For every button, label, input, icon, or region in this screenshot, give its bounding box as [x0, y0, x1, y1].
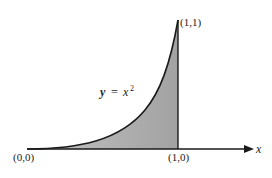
svg-text:y: y — [98, 85, 106, 99]
x-axis-arrowhead-icon — [244, 145, 254, 153]
svg-text:=: = — [111, 85, 118, 99]
point-label-1-0: (1,0) — [168, 151, 189, 164]
area-under-curve-diagram: x (0,0) (1,0) (1,1) y = x 2 — [0, 0, 272, 178]
curve-equation-label: y = x 2 — [98, 84, 134, 99]
svg-text:x: x — [122, 85, 129, 99]
svg-text:2: 2 — [130, 84, 134, 93]
point-label-1-1: (1,1) — [180, 16, 201, 29]
axis-label-x: x — [255, 142, 262, 156]
point-label-origin: (0,0) — [13, 151, 34, 164]
